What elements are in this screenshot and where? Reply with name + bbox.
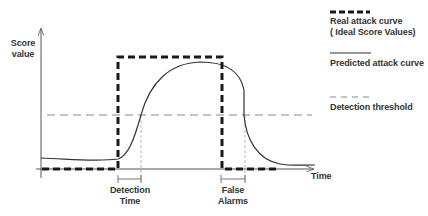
false-alarms-label: False Alarms [218,185,248,207]
legend-real-line2: ( Ideal Score Values) [330,27,415,38]
y-axis-label-line1: Score [11,38,36,49]
detection-time-label: Detection Time [110,185,150,207]
legend-predicted-label: Predicted attack curve [330,58,424,69]
detection-time-bracket [118,175,141,183]
legend-real-line1: Real attack curve [330,16,415,27]
predicted-attack-curve [41,62,315,165]
y-axis-label: Score value [11,38,36,60]
false-alarms-line1: False [218,185,248,196]
y-axis-label-line2: value [11,49,36,60]
legend-real-label: Real attack curve ( Ideal Score Values) [330,16,415,38]
x-axis-label: Time [311,171,331,182]
legend-threshold-label: Detection threshold [330,102,413,113]
false-alarms-bracket [221,175,245,183]
real-attack-curve [42,57,278,169]
detection-time-line2: Time [110,196,150,207]
false-alarms-line2: Alarms [218,196,248,207]
detection-time-line1: Detection [110,185,150,196]
